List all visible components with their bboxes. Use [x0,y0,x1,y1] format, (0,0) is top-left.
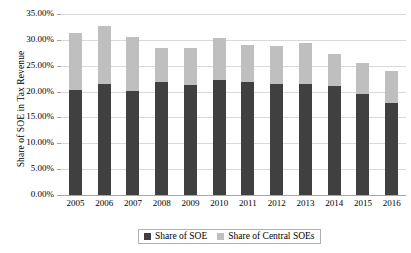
stacked-bar [356,63,369,195]
bar-segment-central-soes [270,46,283,84]
legend-swatch-icon [217,233,224,240]
bar-column [205,14,234,195]
legend-label: Share of SOE [155,231,207,241]
chart-legend: Share of SOEShare of Central SOEs [138,229,321,244]
bar-segment-soe [98,84,111,195]
bar-column [90,14,119,195]
bar-segment-central-soes [299,43,312,84]
bar-segment-soe [385,103,398,195]
stacked-bar [69,33,82,195]
y-axis-tick-label: 35.00% [0,9,54,18]
stacked-bar [98,26,111,195]
legend-item[interactable]: Share of Central SOEs [217,231,314,241]
bar-segment-soe [328,86,341,195]
bar-column [349,14,378,195]
bar-column [176,14,205,195]
bar-segment-central-soes [213,38,226,80]
bar-column [61,14,90,195]
stacked-bar [126,37,139,195]
legend-item[interactable]: Share of SOE [144,231,207,241]
bar-segment-central-soes [155,48,168,82]
bar-column [119,14,148,195]
x-axis-tick-label: 2011 [234,199,263,213]
bar-segment-central-soes [69,33,82,89]
bar-column [291,14,320,195]
stacked-bar [270,46,283,195]
x-axis-tick-label: 2014 [320,199,349,213]
bar-segment-soe [241,82,254,195]
bar-segment-central-soes [241,45,254,82]
bar-segment-soe [155,82,168,195]
stacked-bar [184,48,197,195]
bar-column [147,14,176,195]
bar-chart: Share of SOE in Tax Revenue 35.00%30.00%… [0,0,411,253]
x-axis-tick-label: 2012 [262,199,291,213]
y-axis-tick-label: 15.00% [0,112,54,121]
plot-area [61,14,406,195]
y-axis-tick-label: 5.00% [0,164,54,173]
stacked-bar [385,71,398,195]
bar-segment-soe [213,80,226,195]
x-axis-tick-label: 2015 [349,199,378,213]
x-axis-tick-label: 2008 [147,199,176,213]
legend-label: Share of Central SOEs [228,231,314,241]
y-axis-tick-label: 0.00% [0,190,54,199]
y-axis-tick-label: 25.00% [0,61,54,70]
stacked-bar [328,54,341,195]
bar-segment-central-soes [98,26,111,84]
x-axis-tick-label: 2013 [291,199,320,213]
x-axis-tick-label: 2005 [61,199,90,213]
x-axis-tick-label: 2010 [205,199,234,213]
y-axis-tick-label: 30.00% [0,35,54,44]
legend-swatch-icon [144,233,151,240]
bar-segment-central-soes [184,48,197,85]
bar-segment-soe [126,91,139,195]
bar-segment-soe [299,84,312,195]
bar-segment-central-soes [356,63,369,94]
bar-segment-soe [69,90,82,195]
bar-segment-central-soes [385,71,398,104]
stacked-bar [299,43,312,195]
x-axis-tick-label: 2009 [176,199,205,213]
y-axis-tick-label: 10.00% [0,138,54,147]
x-axis-tick-label: 2016 [377,199,406,213]
bar-segment-soe [356,94,369,195]
stacked-bar [213,38,226,195]
x-axis-tick-label: 2007 [119,199,148,213]
bar-column [320,14,349,195]
bar-segment-central-soes [328,54,341,86]
stacked-bar [155,48,168,195]
bar-column [377,14,406,195]
bar-column [262,14,291,195]
bar-column [234,14,263,195]
y-axis-tick-label: 20.00% [0,87,54,96]
bar-series-group [61,14,406,195]
x-axis-tick-label: 2006 [90,199,119,213]
bar-segment-central-soes [126,37,139,90]
x-axis-tick-labels: 2005200620072008200920102011201220132014… [61,199,406,213]
gridline [61,195,406,196]
bar-segment-soe [270,84,283,195]
bar-segment-soe [184,85,197,195]
stacked-bar [241,45,254,195]
